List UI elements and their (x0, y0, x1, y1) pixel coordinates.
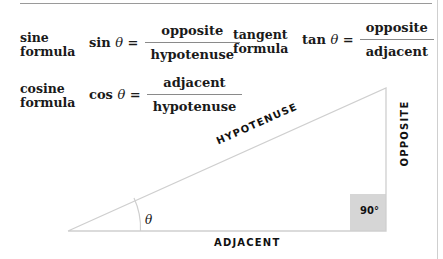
angle-arc (134, 198, 141, 231)
adjacent-label: ADJACENT (214, 237, 280, 248)
angle-theta-label: θ (145, 213, 152, 227)
triangle-outline (68, 88, 386, 231)
right-triangle-diagram (0, 0, 443, 259)
right-angle-label: 90° (360, 205, 379, 216)
opposite-label: OPPOSITE (399, 101, 410, 167)
